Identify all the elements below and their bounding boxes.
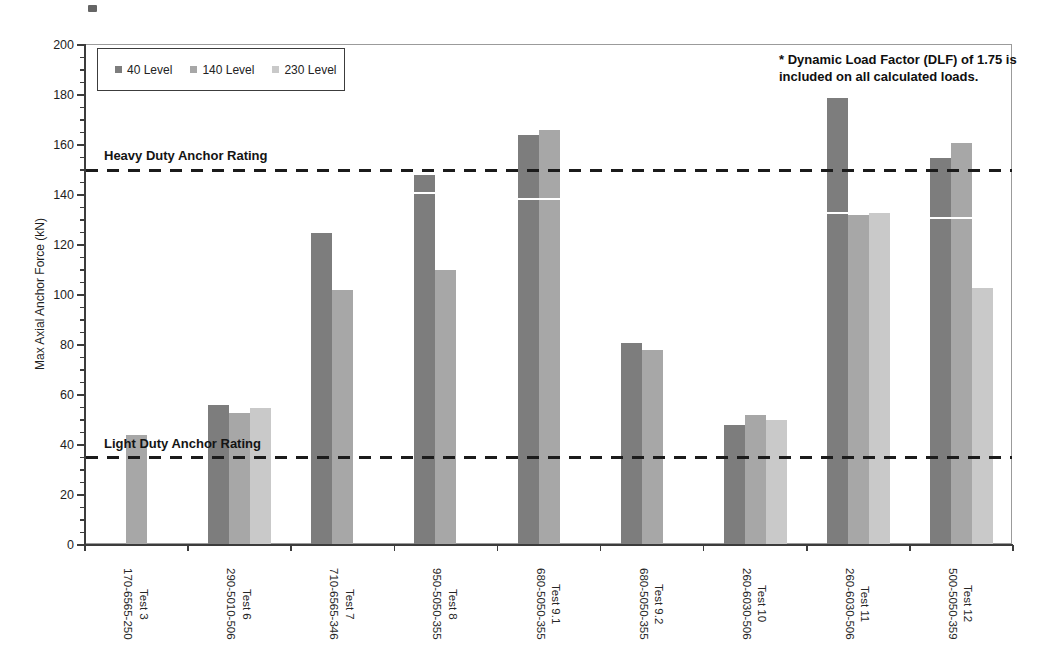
y-minor-tick bbox=[80, 82, 85, 84]
legend-item-230-level: 230 Level bbox=[272, 63, 336, 77]
y-tick-label: 200 bbox=[40, 37, 74, 53]
y-minor-tick bbox=[80, 319, 85, 321]
anchor-force-bar-chart: Max Axial Anchor Force (kN) Heavy Duty A… bbox=[0, 0, 1048, 664]
bar-test-10-140-level bbox=[745, 415, 766, 545]
legend-swatch-140-level bbox=[190, 66, 197, 73]
y-minor-tick bbox=[80, 232, 85, 234]
bar-test-11-40-level bbox=[827, 98, 848, 546]
y-minor-tick bbox=[80, 69, 85, 71]
y-tick-label: 160 bbox=[40, 137, 74, 153]
y-minor-tick bbox=[80, 532, 85, 534]
y-minor-tick bbox=[80, 57, 85, 59]
light-duty-rating-label: Light Duty Anchor Rating bbox=[104, 436, 261, 451]
x-category-label: Test 6290-5010-506 bbox=[223, 552, 254, 656]
x-category-code: 290-5010-506 bbox=[223, 552, 239, 656]
x-category-test: Test 10 bbox=[754, 552, 770, 656]
y-major-tick bbox=[77, 394, 85, 396]
x-category-label: Test 8950-5050-355 bbox=[429, 552, 460, 656]
x-category-test: Test 9.1 bbox=[548, 552, 564, 656]
x-category-test: Test 8 bbox=[444, 552, 460, 656]
x-category-test: Test 7 bbox=[341, 552, 357, 656]
y-tick-label: 80 bbox=[40, 337, 74, 353]
dlf-note-line2: included on all calculated loads. bbox=[779, 68, 1021, 85]
y-minor-tick bbox=[80, 469, 85, 471]
x-category-code: 950-5050-355 bbox=[429, 552, 445, 656]
y-minor-tick bbox=[80, 482, 85, 484]
bar-test-10-40-level bbox=[724, 425, 745, 545]
bar-test-7-140-level bbox=[332, 290, 353, 545]
legend-label-140-level: 140 Level bbox=[202, 63, 254, 77]
legend-swatch-230-level bbox=[272, 66, 279, 73]
bar-test-12-230-level bbox=[972, 288, 993, 546]
heavy-duty-rating-label: Heavy Duty Anchor Rating bbox=[104, 148, 268, 163]
bar-test-11-230-level bbox=[869, 213, 890, 546]
scan-artifact bbox=[88, 5, 97, 12]
bar-white-line bbox=[518, 198, 560, 200]
bar-white-line bbox=[414, 192, 435, 194]
y-major-tick bbox=[77, 494, 85, 496]
bar-test-6-40-level bbox=[208, 405, 229, 545]
y-major-tick bbox=[77, 294, 85, 296]
y-major-tick bbox=[77, 44, 85, 46]
x-category-test: Test 6 bbox=[238, 552, 254, 656]
y-tick-label: 0 bbox=[40, 537, 74, 553]
x-category-label: Test 12500-5050-359 bbox=[944, 552, 975, 656]
y-minor-tick bbox=[80, 457, 85, 459]
legend-swatch-40-level bbox=[115, 66, 122, 73]
bar-test-12-140-level bbox=[951, 143, 972, 546]
y-tick-label: 40 bbox=[40, 437, 74, 453]
y-minor-tick bbox=[80, 269, 85, 271]
x-category-label: Test 3170-6565-250 bbox=[120, 552, 151, 656]
x-category-code: 680-5050-355 bbox=[635, 552, 651, 656]
y-minor-tick bbox=[80, 369, 85, 371]
y-major-tick bbox=[77, 194, 85, 196]
y-minor-tick bbox=[80, 507, 85, 509]
y-minor-tick bbox=[80, 132, 85, 134]
bar-test-9-2-40-level bbox=[621, 343, 642, 546]
legend-label-230-level: 230 Level bbox=[284, 63, 336, 77]
x-category-test: Test 9.2 bbox=[651, 552, 667, 656]
y-minor-tick bbox=[80, 169, 85, 171]
bar-test-9-1-40-level bbox=[518, 135, 539, 545]
x-category-code: 260-6030-506 bbox=[738, 552, 754, 656]
y-minor-tick bbox=[80, 519, 85, 521]
y-minor-tick bbox=[80, 107, 85, 109]
y-minor-tick bbox=[80, 182, 85, 184]
legend: 40 Level 140 Level 230 Level bbox=[97, 48, 345, 91]
y-tick-label: 60 bbox=[40, 387, 74, 403]
y-major-tick bbox=[77, 144, 85, 146]
y-major-tick bbox=[77, 94, 85, 96]
y-tick-label: 120 bbox=[40, 237, 74, 253]
bar-test-6-140-level bbox=[229, 413, 250, 546]
y-minor-tick bbox=[80, 257, 85, 259]
x-category-code: 260-6030-506 bbox=[841, 552, 857, 656]
bar-test-6-230-level bbox=[250, 408, 271, 546]
x-category-test: Test 11 bbox=[857, 552, 873, 656]
bar-test-8-40-level bbox=[414, 175, 435, 545]
bar-test-10-230-level bbox=[766, 420, 787, 545]
bar-white-line bbox=[930, 217, 972, 219]
y-tick-label: 140 bbox=[40, 187, 74, 203]
dlf-note: * Dynamic Load Factor (DLF) of 1.75 is i… bbox=[779, 51, 1021, 85]
y-minor-tick bbox=[80, 307, 85, 309]
x-category-label: Test 10260-6030-506 bbox=[738, 552, 769, 656]
bar-test-9-1-140-level bbox=[539, 130, 560, 545]
y-minor-tick bbox=[80, 407, 85, 409]
x-category-label: Test 7710-6565-346 bbox=[326, 552, 357, 656]
bar-test-3-140-level bbox=[126, 435, 147, 545]
y-major-tick bbox=[77, 444, 85, 446]
x-axis-line bbox=[84, 544, 1013, 546]
y-tick-label: 180 bbox=[40, 87, 74, 103]
x-category-code: 710-6565-346 bbox=[326, 552, 342, 656]
y-minor-tick bbox=[80, 357, 85, 359]
x-category-label: Test 11260-6030-506 bbox=[841, 552, 872, 656]
heavy-duty-rating-line bbox=[86, 169, 1012, 172]
legend-item-140-level: 140 Level bbox=[190, 63, 254, 77]
y-minor-tick bbox=[80, 219, 85, 221]
y-minor-tick bbox=[80, 382, 85, 384]
light-duty-rating-line bbox=[86, 456, 1012, 459]
bar-test-9-2-140-level bbox=[642, 350, 663, 545]
y-major-tick bbox=[77, 244, 85, 246]
x-category-test: Test 12 bbox=[960, 552, 976, 656]
legend-label-40-level: 40 Level bbox=[127, 63, 172, 77]
